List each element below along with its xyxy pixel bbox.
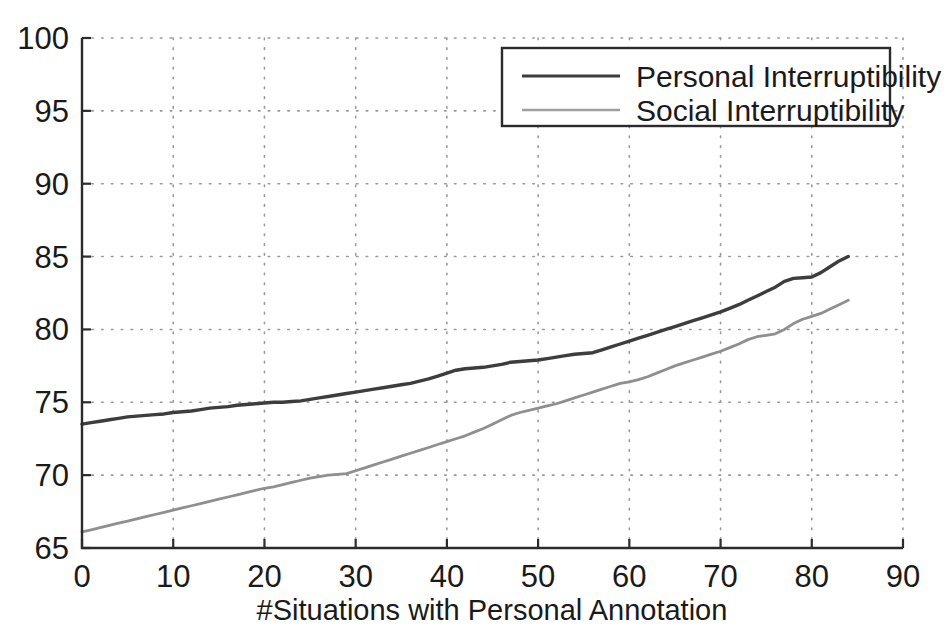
x-tick-label: 30 [338,559,372,594]
line-chart: 65707580859095100 0102030405060708090 #S… [0,0,944,643]
x-tick-label: 70 [703,559,737,594]
y-tick-label: 90 [35,167,69,202]
x-axis-title: #Situations with Personal Annotation [257,594,728,626]
chart-legend: Personal Interruptibility Social Interru… [502,48,941,127]
y-tick-label: 100 [17,21,69,56]
y-tick-label: 85 [35,240,69,275]
chart-page: 65707580859095100 0102030405060708090 #S… [0,0,944,643]
y-tick-label: 80 [35,312,69,347]
x-tick-label: 90 [886,559,920,594]
x-tick-label: 0 [73,559,90,594]
x-tick-label: 50 [521,559,555,594]
x-tick-label: 40 [430,559,464,594]
legend-label-personal: Personal Interruptibility [636,60,941,93]
y-tick-label: 65 [35,531,69,566]
x-tick-label: 80 [795,559,829,594]
x-tick-label: 10 [156,559,190,594]
y-tick-label: 75 [35,385,69,420]
legend-label-social: Social Interruptibility [636,94,904,127]
x-tick-label: 20 [247,559,281,594]
y-tick-label: 95 [35,94,69,129]
y-tick-label: 70 [35,458,69,493]
x-tick-label: 60 [612,559,646,594]
